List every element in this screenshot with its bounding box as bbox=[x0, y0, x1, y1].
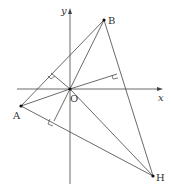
y-axis-arrow-icon bbox=[68, 8, 72, 14]
perpendiculars bbox=[51, 73, 117, 121]
x-axis-label: x bbox=[158, 92, 164, 103]
segment-ab bbox=[21, 20, 104, 106]
label-h: H bbox=[156, 172, 165, 183]
segment-ah bbox=[21, 106, 153, 176]
points bbox=[19, 18, 154, 177]
label-o: O bbox=[70, 93, 78, 104]
x-axis-arrow-icon bbox=[157, 87, 163, 91]
segment-bh bbox=[104, 20, 153, 176]
point-b bbox=[102, 18, 105, 21]
label-b: B bbox=[108, 15, 115, 26]
axes: x y bbox=[17, 5, 164, 184]
segment-oh bbox=[70, 89, 153, 176]
perpendicular-to-bh bbox=[70, 74, 117, 89]
triangle-abh bbox=[21, 20, 153, 176]
segment-bo bbox=[70, 20, 104, 89]
point-labels: A B H O bbox=[12, 15, 165, 183]
coordinate-diagram: x y A B H O bbox=[0, 0, 171, 194]
point-h bbox=[151, 174, 154, 177]
right-angle-marks bbox=[48, 75, 118, 126]
y-axis-label: y bbox=[60, 5, 67, 16]
label-a: A bbox=[12, 110, 21, 121]
point-o bbox=[68, 87, 71, 90]
segments-from-origin bbox=[21, 20, 153, 176]
point-a bbox=[19, 104, 22, 107]
perpendicular-to-ab bbox=[51, 73, 70, 89]
